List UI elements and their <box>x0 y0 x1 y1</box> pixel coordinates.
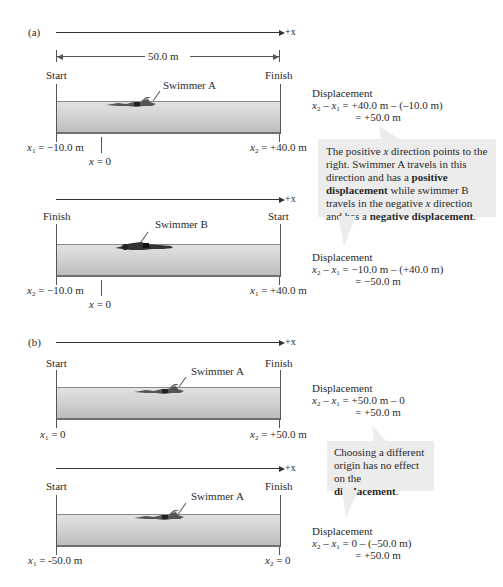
start-label: Start <box>46 357 67 369</box>
displacement-equation: x2 – x1 = +40.0 m – (–10.0 m) <box>312 99 443 111</box>
part-b-label: (b) <box>28 336 41 348</box>
tick <box>56 420 57 428</box>
displacement-title: Displacement <box>312 251 443 263</box>
axis-label: +x <box>285 193 296 204</box>
position-x2-label: x2 = +50.0 m <box>250 428 307 440</box>
displacement-block: Displacement x2 – x1 = 0 – (–50.0 m) = +… <box>312 525 411 561</box>
position-x1-label: x1 = +40.0 m <box>250 284 307 296</box>
finish-label: Finish <box>265 480 293 492</box>
displacement-equation: x2 – x1 = +50.0 m – 0 <box>312 394 405 406</box>
callout-tail-down <box>342 490 360 518</box>
dimension-tick-right <box>279 50 280 62</box>
origin-label: x = 0 <box>89 298 111 310</box>
position-x2-label: x2 = 0 <box>265 554 291 566</box>
position-x2-label: x2 = −10.0 m <box>27 284 84 296</box>
swimmer-icon <box>132 510 186 522</box>
callout-tail-up <box>375 126 405 140</box>
position-x1-label: x1 = 0 <box>40 428 66 440</box>
displacement-title: Displacement <box>312 87 443 99</box>
origin-tick <box>101 137 102 153</box>
dimension-arrow-right <box>190 56 279 57</box>
displacement-result: = +50.0 m <box>312 406 405 418</box>
part-a-label: (a) <box>28 26 40 38</box>
callout-tail-down <box>338 216 358 246</box>
axis-label: +x <box>285 462 296 473</box>
swimmer-icon <box>113 240 175 254</box>
start-label: Start <box>46 69 67 81</box>
position-x2-label: x2 = +40.0 m <box>250 141 307 153</box>
position-x1-label: x1 = −10.0 m <box>27 141 84 153</box>
displacement-equation: x2 – x1 = 0 – (–50.0 m) <box>312 537 411 549</box>
origin-tick <box>101 280 102 296</box>
x-axis-arrow <box>56 199 280 200</box>
dimension-arrow-left <box>57 56 145 57</box>
finish-label: Finish <box>43 210 71 222</box>
displacement-block: Displacement x2 – x1 = +50.0 m – 0 = +50… <box>312 382 405 418</box>
swimmer-icon <box>132 384 186 396</box>
finish-label: Finish <box>265 69 293 81</box>
callout-note-b: Choosing a different origin has no effec… <box>327 441 434 491</box>
displacement-result: = +50.0 m <box>312 111 443 123</box>
origin-label: x = 0 <box>89 155 111 167</box>
pool <box>56 84 281 134</box>
axis-label: +x <box>285 26 296 37</box>
x-axis-arrow <box>56 32 280 33</box>
displacement-title: Displacement <box>312 525 411 537</box>
tick <box>279 420 280 428</box>
swimmer-icon <box>104 97 158 109</box>
axis-label: +x <box>285 336 296 347</box>
x-axis-arrow <box>56 468 280 469</box>
callout-note-a: The positive x direction points to the r… <box>318 139 496 217</box>
displacement-result: = +50.0 m <box>312 549 411 561</box>
position-x1-label: x1 = -50.0 m <box>28 554 82 566</box>
displacement-title: Displacement <box>312 382 405 394</box>
finish-label: Finish <box>265 357 293 369</box>
dimension-label: 50.0 m <box>148 50 179 62</box>
displacement-result: = −50.0 m <box>312 275 443 287</box>
displacement-block: Displacement x2 – x1 = +40.0 m – (–10.0 … <box>312 87 443 123</box>
water <box>57 101 280 134</box>
start-label: Start <box>46 480 67 492</box>
displacement-block: Displacement x2 – x1 = −10.0 m – (+40.0 … <box>312 251 443 287</box>
start-label: Start <box>268 210 289 222</box>
x-axis-arrow <box>56 342 280 343</box>
displacement-equation: x2 – x1 = −10.0 m – (+40.0 m) <box>312 263 443 275</box>
